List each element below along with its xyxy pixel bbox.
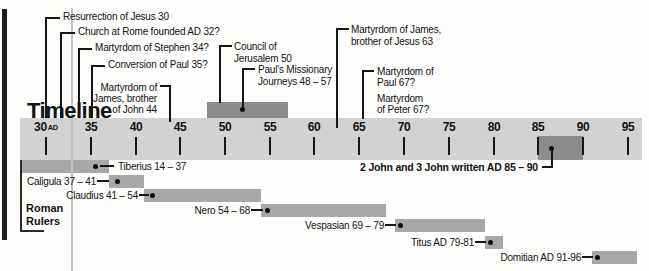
event-paul-journeys-label: Paul's Missionary Journeys 48 – 57: [258, 64, 332, 87]
connector-paul-journeys: [242, 68, 244, 110]
nero-connector: [251, 209, 263, 211]
john-letters-bar: [538, 136, 583, 160]
nero-bar: [261, 204, 386, 217]
connector-john-letters: [551, 149, 553, 168]
tick-mark-40: [135, 137, 137, 155]
rulers-bracket: [20, 160, 22, 232]
rulers-bracket-foot: [20, 230, 44, 232]
domitian-dot: [595, 255, 600, 260]
event-james-brother-of-john-label: Martyrdom of James, brother of John 44: [87, 82, 157, 115]
claudius-bar: [144, 189, 261, 202]
claudius-label: Claudius 41 – 54: [50, 190, 138, 201]
connector-james-brother-of-jesus: [336, 28, 338, 128]
line3: of John 44: [112, 104, 157, 115]
timeline-diagram: 30AD 35 40 45 50 55 60 65 70 75 80 85 90…: [0, 0, 649, 271]
event-resurrection-label: Resurrection of Jesus 30: [63, 11, 169, 22]
event-james-brother-of-jesus-label: Martyrdom of James, brother of Jesus 63: [351, 24, 441, 47]
connector-council-jerusalem: [219, 45, 221, 103]
nero-label: Nero 54 – 68: [180, 205, 250, 216]
tick-mark-50: [224, 137, 226, 155]
axis-label-55: 55: [264, 120, 277, 134]
axis-label-70: 70: [398, 120, 411, 134]
vespasian-dot: [398, 223, 403, 228]
tick-mark-30: [45, 137, 47, 155]
line1: Roman: [26, 202, 63, 214]
axis-label-60: 60: [308, 120, 321, 134]
vespasian-bar: [395, 219, 485, 232]
tick-mark-35: [90, 137, 92, 155]
tick-mark-55: [269, 137, 271, 155]
tick-mark-45: [179, 137, 181, 155]
titus-dot: [488, 240, 493, 245]
line1: Council of: [234, 41, 276, 52]
axis-label-90: 90: [577, 120, 590, 134]
vespasian-label: Vespasian 69 – 79: [277, 220, 384, 231]
caligula-connector: [97, 180, 109, 182]
line2: Paul 67?: [377, 77, 415, 88]
event-peter-martyrdom-label: Martyrdom of Peter 67?: [377, 93, 429, 115]
event-john-letters-label: 2 John and 3 John written AD 85 – 90: [327, 162, 538, 173]
tick-mark-95: [627, 137, 629, 155]
connector-paul-journeys: [243, 68, 255, 70]
event-paul-martyrdom-label: Martyrdom of Paul 67?: [377, 66, 434, 88]
claudius-connector: [139, 194, 149, 196]
event-stephen-label: Martyrdom of Stephen 34?: [95, 42, 209, 53]
line2: of Peter 67?: [377, 104, 429, 115]
page-edge-strip: [2, 9, 7, 240]
tick-mark-65: [358, 137, 360, 155]
line2: Journeys 48 – 57: [258, 76, 332, 87]
paul-journeys-dot: [240, 107, 245, 112]
john-letters-dot: [549, 146, 554, 151]
connector-council-jerusalem: [220, 45, 232, 47]
connector-james-brother-of-jesus: [337, 28, 349, 30]
line1: Martyrdom: [377, 93, 423, 104]
connector-paul-conversion: [92, 65, 105, 67]
axis-label-40: 40: [130, 120, 143, 134]
domitian-label: Domitian AD 91-96: [471, 252, 581, 263]
paul-journeys-bar: [207, 102, 288, 118]
rulers-section-label: Roman Rulers: [26, 202, 63, 228]
event-church-rome-label: Church at Rome founded AD 32?: [78, 26, 220, 37]
tick-mark-75: [448, 137, 450, 155]
line2: Rulers: [26, 215, 60, 227]
caligula-dot: [115, 179, 120, 184]
tick-mark-60: [313, 137, 315, 155]
event-paul-conversion-label: Conversion of Paul 35?: [108, 59, 208, 70]
connector-paul-martyrdom: [362, 70, 364, 119]
claudius-dot: [150, 193, 155, 198]
line1: Martyrdom of James,: [351, 24, 441, 35]
tiberius-connector: [100, 165, 114, 167]
connector-stephen: [79, 48, 92, 50]
ad-suffix: AD: [48, 123, 58, 132]
connector-resurrection: [46, 17, 60, 19]
event-council-jerusalem-label: Council of Jerusalem 50: [234, 41, 292, 65]
axis-label-80: 80: [488, 120, 501, 134]
line2: brother of Jesus 63: [351, 36, 433, 47]
caligula-label: Caligula 37 – 41: [20, 176, 96, 187]
titus-label: Titus AD 79-81: [384, 237, 474, 248]
tiberius-dot: [93, 164, 98, 169]
line1: Martyrdom of: [100, 82, 157, 93]
tick-mark-70: [403, 137, 405, 155]
page-fold-line: [71, 8, 73, 271]
tick-mark-85: [537, 137, 539, 155]
line1: Martyrdom of: [377, 66, 434, 77]
axis-label-95: 95: [622, 120, 635, 134]
line1: Paul's Missionary: [258, 64, 332, 75]
titus-connector: [475, 241, 486, 243]
domitian-connector: [582, 256, 593, 258]
connector-church-rome: [61, 32, 75, 34]
axis-label-85: 85: [532, 120, 545, 134]
tick-mark-90: [582, 137, 584, 155]
axis-label-45: 45: [174, 120, 187, 134]
line2: James, brother: [93, 93, 157, 104]
vespasian-connector: [385, 224, 396, 226]
tiberius-label: Tiberius 14 – 37: [118, 161, 186, 172]
connector-paul-martyrdom: [363, 70, 374, 72]
nero-dot: [265, 208, 270, 213]
connector-james-brother-of-john: [169, 85, 171, 122]
axis-label-50: 50: [219, 120, 232, 134]
axis-label-65: 65: [353, 120, 366, 134]
axis-label-75: 75: [443, 120, 456, 134]
line2: Jerusalem 50: [234, 53, 292, 64]
